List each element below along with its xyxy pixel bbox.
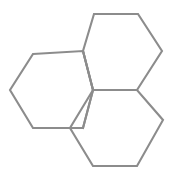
figure-background — [0, 0, 183, 180]
structure-figure — [0, 0, 183, 180]
chemical-structure-canvas — [0, 0, 183, 180]
